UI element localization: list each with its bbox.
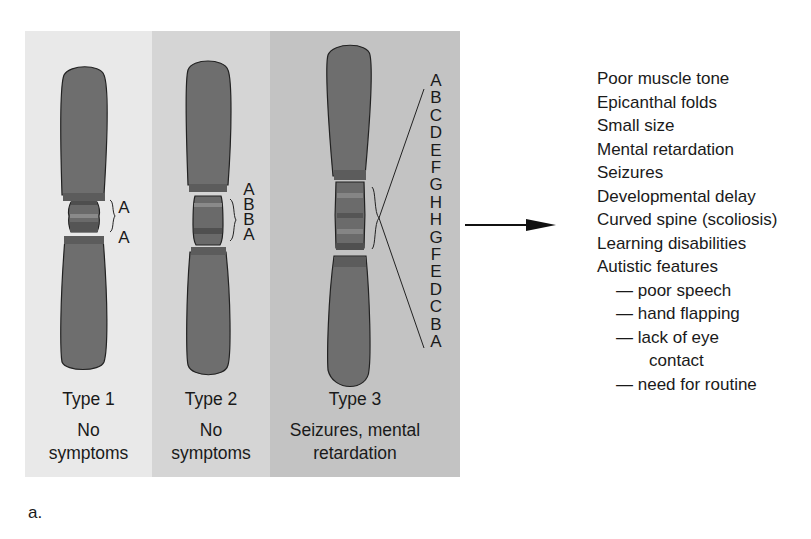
band xyxy=(194,203,222,207)
band xyxy=(70,222,98,232)
band xyxy=(191,247,226,255)
segment-letter: C xyxy=(428,107,444,124)
band xyxy=(189,184,227,192)
segment-letter: D xyxy=(428,281,444,298)
dash: — xyxy=(616,375,633,394)
type3-title: Type 3 xyxy=(270,388,440,411)
segment-letter: E xyxy=(428,263,444,280)
subitem-text: poor speech xyxy=(638,281,732,300)
subitem-text: lack of eye xyxy=(638,328,719,347)
autistic-subitem: — lack of eye xyxy=(597,326,777,350)
segment-letter: F xyxy=(428,159,444,176)
pointer-line-lower xyxy=(379,218,424,348)
segment-letter: C xyxy=(428,298,444,315)
symptom-item: Developmental delay xyxy=(597,185,777,209)
symptom-item: Epicanthal folds xyxy=(597,91,777,115)
band xyxy=(71,201,97,205)
type2-caption: Type 2 No symptoms xyxy=(152,388,270,465)
symptom-item: Mental retardation xyxy=(597,138,777,162)
chromosome-type3 xyxy=(327,45,371,386)
brace xyxy=(372,187,379,249)
type1-desc-1: No xyxy=(25,419,152,442)
chromosome-type3-upper-arm xyxy=(327,45,371,176)
figure-label: a. xyxy=(28,503,42,523)
type3-desc-2: retardation xyxy=(270,442,440,465)
symptom-list: Poor muscle tone Epicanthal folds Small … xyxy=(597,67,777,396)
segment-letter: B xyxy=(428,89,444,106)
type2-desc-1: No xyxy=(152,419,270,442)
segment-letter: A xyxy=(428,333,444,350)
chromosome-type1-lower-arm xyxy=(61,238,107,370)
band xyxy=(336,243,364,250)
segment-letter: H xyxy=(428,211,444,228)
band xyxy=(194,228,222,234)
type2-desc-2: symptoms xyxy=(152,442,270,465)
segment-letter: A xyxy=(116,229,132,246)
symptom-item: Seizures xyxy=(597,161,777,185)
autistic-subitem: — poor speech xyxy=(597,279,777,303)
dash: — xyxy=(616,304,633,323)
dash: — xyxy=(616,281,633,300)
band xyxy=(63,193,105,201)
symptom-item: Autistic features xyxy=(597,255,777,279)
chromosome-type2 xyxy=(186,61,231,375)
segment-letter: G xyxy=(428,229,444,246)
segment-letter: A xyxy=(116,199,132,216)
autistic-subitem-continuation: contact xyxy=(597,349,777,373)
symptom-item: Curved spine (scoliosis) xyxy=(597,208,777,232)
band xyxy=(337,213,363,218)
brace xyxy=(230,199,236,241)
band xyxy=(64,236,104,244)
band xyxy=(334,257,366,267)
type3-desc-1: Seizures, mental xyxy=(270,419,440,442)
type2-title: Type 2 xyxy=(152,388,270,411)
type1-title: Type 1 xyxy=(25,388,152,411)
pointer-line-upper xyxy=(379,89,424,218)
type1-desc-2: symptoms xyxy=(25,442,152,465)
dash: — xyxy=(616,328,633,347)
band xyxy=(337,193,363,198)
segment-letter: F xyxy=(428,246,444,263)
chromosome-type2-lower-arm xyxy=(187,252,230,375)
band xyxy=(70,214,98,218)
segment-letter: B xyxy=(428,316,444,333)
chromosome-type1 xyxy=(61,67,107,370)
segment-letter: G xyxy=(428,176,444,193)
chromosome-type1-upper-arm xyxy=(61,67,107,195)
band xyxy=(334,170,366,180)
chromosome-type3-lower-arm xyxy=(328,256,370,387)
segment-letter: A xyxy=(241,226,257,243)
chromosome-type2-upper-arm xyxy=(186,61,231,185)
band xyxy=(337,229,363,234)
autistic-subitem: — hand flapping xyxy=(597,302,777,326)
type3-caption: Type 3 Seizures, mental retardation xyxy=(270,388,440,465)
symptom-item: Poor muscle tone xyxy=(597,67,777,91)
arrow-head-icon xyxy=(526,219,556,231)
symptom-item: Learning disabilities xyxy=(597,232,777,256)
segment-letter: D xyxy=(428,124,444,141)
segment-letter: H xyxy=(428,194,444,211)
type1-caption: Type 1 No symptoms xyxy=(25,388,152,465)
autistic-subitem: — need for routine xyxy=(597,373,777,397)
brace xyxy=(110,200,115,232)
subitem-text: hand flapping xyxy=(638,304,740,323)
segment-letter: E xyxy=(428,142,444,159)
symptom-item: Small size xyxy=(597,114,777,138)
subitem-text: need for routine xyxy=(638,375,757,394)
segment-letter: A xyxy=(428,72,444,89)
